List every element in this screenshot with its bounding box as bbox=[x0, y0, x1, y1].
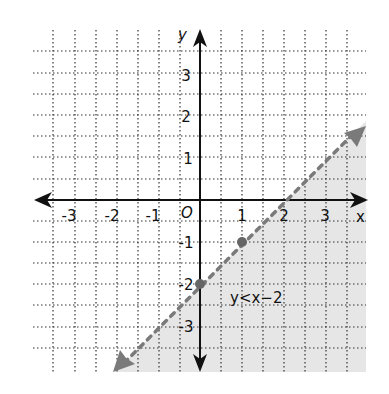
origin-label: O bbox=[181, 204, 193, 222]
y-tick-label: -3 bbox=[179, 318, 194, 336]
point-1-neg1 bbox=[237, 237, 247, 247]
y-tick-label: -2 bbox=[179, 276, 194, 294]
coordinate-plane: y x O -3 -2 -1 1 2 3 3 2 1 -1 -2 -3 y<x−… bbox=[0, 0, 389, 394]
x-tick-label: -2 bbox=[105, 207, 120, 225]
y-tick-label: -1 bbox=[179, 234, 194, 252]
x-tick-label: 3 bbox=[320, 207, 330, 225]
x-tick-label: 2 bbox=[279, 207, 289, 225]
x-tick-label: -1 bbox=[146, 207, 161, 225]
x-tick-label: 1 bbox=[237, 207, 247, 225]
y-tick-label: 3 bbox=[181, 67, 191, 85]
y-tick-label: 1 bbox=[183, 150, 193, 168]
x-tick-label: -3 bbox=[62, 207, 77, 225]
point-0-neg2 bbox=[195, 279, 205, 289]
y-axis-label: y bbox=[177, 26, 188, 44]
x-axis-label: x bbox=[356, 208, 365, 226]
inequality-label: y<x−2 bbox=[230, 289, 282, 307]
y-tick-label: 2 bbox=[181, 108, 191, 126]
